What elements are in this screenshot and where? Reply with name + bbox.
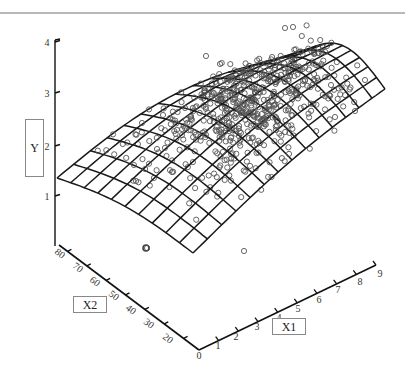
data-point xyxy=(228,135,233,140)
data-point xyxy=(322,107,327,112)
data-point xyxy=(327,117,332,122)
data-point xyxy=(214,175,219,180)
data-point xyxy=(124,155,129,160)
data-point xyxy=(168,122,173,127)
y-axis-label: Y xyxy=(30,141,39,155)
y-axis-label-box: Y xyxy=(26,120,44,177)
x1-tick-label: 1 xyxy=(216,340,221,351)
data-point xyxy=(200,175,205,180)
x2-axis-label: X2 xyxy=(83,298,98,312)
x1-tick-label: 0 xyxy=(197,350,202,361)
data-point xyxy=(193,186,198,191)
y-tick-label: 4 xyxy=(45,37,50,48)
data-point xyxy=(206,173,211,178)
data-point xyxy=(304,23,309,28)
data-point xyxy=(286,151,291,156)
data-point xyxy=(183,117,188,122)
data-point xyxy=(335,96,340,101)
data-point-outlier xyxy=(241,248,246,253)
data-point xyxy=(147,138,152,143)
data-point-outlier xyxy=(290,24,295,29)
x1-axis: 0123456789 xyxy=(197,261,383,361)
data-point-outlier xyxy=(203,53,208,58)
x2-tick-label: 20 xyxy=(161,331,176,346)
data-point xyxy=(239,195,244,200)
data-point xyxy=(266,174,271,179)
data-point xyxy=(308,38,313,43)
data-point-outlier xyxy=(217,61,222,66)
data-point xyxy=(222,177,227,182)
data-point xyxy=(187,201,192,206)
data-point xyxy=(194,217,199,222)
data-point xyxy=(336,86,341,91)
y-tick-label: 3 xyxy=(45,88,50,99)
data-point xyxy=(188,176,193,181)
data-point xyxy=(278,139,283,144)
y-tick-label: 2 xyxy=(45,141,50,152)
x1-tick-label: 6 xyxy=(317,294,322,305)
x2-axis-label-box: X2 xyxy=(74,297,107,313)
y-tick-label: 1 xyxy=(45,191,50,202)
data-point xyxy=(243,61,248,66)
x1-tick-label: 7 xyxy=(336,284,341,295)
data-point xyxy=(341,104,346,109)
data-point xyxy=(154,168,159,173)
data-point xyxy=(307,115,312,120)
data-point xyxy=(347,87,352,92)
data-point-outlier xyxy=(362,77,367,82)
3d-chart: 4321 80706050403020 0123456789 Y X2 X1 xyxy=(0,0,405,383)
x1-tick-label: 3 xyxy=(255,321,260,332)
data-point-outlier xyxy=(282,25,287,30)
y-axis: 4321 xyxy=(45,37,61,246)
data-point xyxy=(225,165,230,170)
data-point xyxy=(179,100,184,105)
data-point xyxy=(299,33,304,38)
x1-axis-label: X1 xyxy=(282,320,297,334)
data-point xyxy=(288,101,293,106)
data-point xyxy=(228,62,233,67)
data-point xyxy=(328,82,333,87)
data-point xyxy=(241,168,246,173)
data-point xyxy=(286,145,291,150)
data-point-outlier xyxy=(332,114,337,119)
data-point xyxy=(165,140,170,145)
data-point xyxy=(201,118,206,123)
data-point xyxy=(261,143,266,148)
data-point xyxy=(247,163,252,168)
data-point xyxy=(212,171,217,176)
x2-tick-label: 30 xyxy=(142,316,157,331)
x1-tick-label: 5 xyxy=(296,303,301,314)
x2-tick-label: 40 xyxy=(124,302,139,317)
x2-tick-label: 80 xyxy=(53,246,68,261)
data-point xyxy=(220,149,225,154)
data-point xyxy=(329,65,334,70)
data-point xyxy=(318,37,323,42)
data-point xyxy=(208,101,213,106)
data-point xyxy=(278,92,283,97)
x2-tick-label: 70 xyxy=(71,260,86,275)
data-point xyxy=(355,63,360,68)
data-point xyxy=(177,147,182,152)
x1-tick-label: 9 xyxy=(378,268,383,279)
x1-tick-label: 2 xyxy=(234,331,239,342)
data-point xyxy=(332,128,337,133)
data-point xyxy=(160,112,165,117)
x1-axis-label-box: X1 xyxy=(273,319,306,335)
data-point xyxy=(112,152,117,157)
x1-tick-label: 8 xyxy=(358,276,363,287)
data-point xyxy=(140,157,145,162)
